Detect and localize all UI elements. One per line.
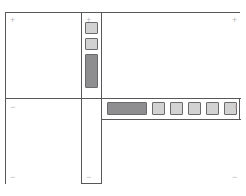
top-left-panel[interactable] — [6, 13, 81, 98]
middle-left-panel[interactable] — [6, 99, 81, 119]
screen-root: + + + − + − − − — [0, 0, 246, 196]
wireframe-frame: + + + − + − − − — [5, 12, 240, 184]
bottom-right-panel[interactable] — [102, 120, 241, 184]
minus-marker-strip-bottom-icon: − — [86, 173, 91, 182]
minus-marker-bottom-left-icon: − — [10, 173, 15, 182]
plus-marker-toolbar-right-icon: + — [233, 103, 238, 112]
bottom-left-panel[interactable] — [6, 120, 81, 184]
toolbar-button-4[interactable] — [206, 102, 219, 115]
plus-marker-strip-top-icon: + — [86, 16, 91, 25]
strip-swatch-2[interactable] — [85, 38, 98, 50]
toolbar-button-2[interactable] — [170, 102, 183, 115]
toolbar-wide-bar[interactable] — [107, 102, 147, 115]
plus-marker-top-right-icon: + — [232, 16, 237, 25]
minus-marker-middle-left-icon: − — [10, 103, 15, 112]
strip-slider[interactable] — [85, 54, 98, 88]
top-right-panel[interactable] — [102, 13, 241, 98]
toolbar-button-1[interactable] — [152, 102, 165, 115]
toolbar-button-3[interactable] — [188, 102, 201, 115]
minus-marker-bottom-right-icon: − — [232, 173, 237, 182]
horizontal-toolbar — [102, 99, 241, 119]
plus-marker-top-left-icon: + — [10, 16, 15, 25]
vertical-tool-strip — [82, 13, 101, 98]
